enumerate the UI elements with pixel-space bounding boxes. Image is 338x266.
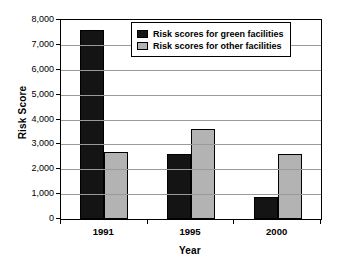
gridline: [61, 95, 321, 96]
x-axis-tick-mark: [60, 219, 61, 224]
x-axis-tick-mark: [233, 219, 234, 224]
legend-item: Risk scores for other facilities: [137, 40, 284, 51]
y-axis-tick-label: 6,000: [8, 65, 54, 74]
y-axis-tick-label: 8,000: [8, 15, 54, 24]
gridline: [61, 70, 321, 71]
y-axis-tick-mark: [56, 119, 60, 120]
gridline: [61, 169, 321, 170]
y-axis-tick-mark: [56, 94, 60, 95]
legend-swatch-icon: [137, 30, 148, 38]
y-axis-tick-mark: [56, 69, 60, 70]
y-axis-tick-label: 4,000: [8, 115, 54, 124]
legend-item-label: Risk scores for other facilities: [153, 41, 282, 51]
gridline: [61, 120, 321, 121]
legend-swatch-icon: [137, 42, 148, 50]
x-axis-tick-label: 1991: [73, 227, 133, 237]
y-axis-tick-mark: [56, 193, 60, 194]
bar-2000-series-1: [278, 154, 302, 219]
chart-legend: Risk scores for green facilitiesRisk sco…: [131, 22, 291, 57]
x-axis-tick-mark: [147, 219, 148, 224]
y-axis-tick-mark: [56, 44, 60, 45]
y-axis-tick-labels: 01,0002,0003,0004,0005,0006,0007,0008,00…: [8, 0, 54, 266]
y-axis-tick-label: 2,000: [8, 164, 54, 173]
x-axis-tick-label: 2000: [247, 227, 307, 237]
legend-item: Risk scores for green facilities: [137, 28, 284, 39]
gridline: [61, 194, 321, 195]
y-axis-tick-label: 5,000: [8, 90, 54, 99]
bar-chart: Risk Score 01,0002,0003,0004,0005,0006,0…: [0, 0, 338, 266]
x-axis-tick-label: 1995: [160, 227, 220, 237]
bar-1991-series-0: [80, 30, 104, 219]
gridline: [61, 144, 321, 145]
bar-1995-series-0: [167, 154, 191, 219]
bar-2000-series-0: [254, 197, 278, 219]
y-axis-tick-mark: [56, 143, 60, 144]
y-axis-tick-mark: [56, 168, 60, 169]
y-axis-tick-label: 7,000: [8, 40, 54, 49]
y-axis-tick-label: 1,000: [8, 189, 54, 198]
x-axis-title: Year: [60, 245, 320, 256]
bar-1991-series-1: [104, 152, 128, 219]
legend-item-label: Risk scores for green facilities: [153, 29, 284, 39]
y-axis-tick-label: 3,000: [8, 139, 54, 148]
y-axis-tick-mark: [56, 19, 60, 20]
x-axis-tick-mark: [320, 219, 321, 224]
bar-1995-series-1: [191, 129, 215, 219]
y-axis-tick-label: 0: [8, 214, 54, 223]
